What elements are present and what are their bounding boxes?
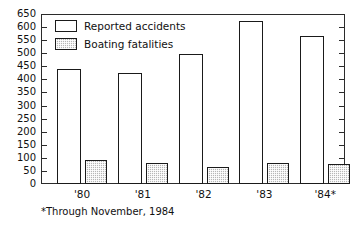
y-tick-mark-left [41, 53, 47, 54]
y-tick-mark-left [41, 27, 47, 28]
bar-reported-accidents [300, 36, 324, 184]
bar-reported-accidents [118, 73, 142, 184]
y-tick-mark-left [41, 119, 47, 120]
y-tick-label: 550 [2, 35, 36, 45]
bar-chart-figure: 650600550500450400350300250200150100500 … [0, 0, 357, 229]
y-tick-label: 250 [2, 114, 36, 124]
y-tick-mark-right [339, 27, 345, 28]
bar-boating-fatalities [328, 164, 350, 184]
legend-item-reported-accidents: Reported accidents [55, 18, 190, 34]
y-tick-mark-left [41, 145, 47, 146]
x-tick-label: '82 [174, 188, 234, 200]
y-tick-mark-left [41, 79, 47, 80]
y-tick-mark-right [339, 66, 345, 67]
y-tick-label: 0 [2, 179, 36, 189]
bar-reported-accidents [179, 54, 203, 184]
bar-reported-accidents [57, 69, 81, 184]
y-tick-mark-right [339, 119, 345, 120]
legend-swatch-icon-fatalities [55, 38, 77, 50]
y-tick-mark-right [339, 53, 345, 54]
y-tick-label: 100 [2, 153, 36, 163]
y-tick-mark-left [41, 171, 47, 172]
bar-boating-fatalities [85, 160, 107, 184]
y-tick-mark-right [339, 158, 345, 159]
y-tick-mark-right [339, 40, 345, 41]
bar-boating-fatalities [267, 163, 289, 184]
legend-item-boating-fatalities: Boating fatalities [55, 36, 190, 52]
y-tick-mark-right [339, 132, 345, 133]
legend-swatch-icon-accidents [55, 20, 77, 32]
bar-boating-fatalities [207, 167, 229, 184]
y-tick-label: 350 [2, 87, 36, 97]
y-tick-mark-left [41, 40, 47, 41]
x-tick-label: '84* [295, 188, 355, 200]
legend-label-fatalities: Boating fatalities [84, 38, 173, 50]
bar-boating-fatalities [146, 163, 168, 184]
y-tick-mark-right [339, 145, 345, 146]
y-tick-mark-right [339, 79, 345, 80]
y-tick-mark-left [41, 132, 47, 133]
y-tick-label: 600 [2, 22, 36, 32]
y-tick-label: 50 [2, 166, 36, 176]
legend-label-accidents: Reported accidents [84, 20, 186, 32]
y-tick-label: 300 [2, 101, 36, 111]
chart-legend: Reported accidents Boating fatalities [55, 18, 190, 54]
x-tick-label: '80 [52, 188, 112, 200]
y-tick-mark-left [41, 158, 47, 159]
y-tick-mark-left [41, 106, 47, 107]
y-tick-mark-left [41, 66, 47, 67]
y-tick-label: 150 [2, 140, 36, 150]
y-tick-label: 450 [2, 61, 36, 71]
y-tick-mark-right [339, 92, 345, 93]
y-tick-label: 500 [2, 48, 36, 58]
chart-footnote: *Through November, 1984 [41, 206, 175, 218]
y-tick-label: 200 [2, 127, 36, 137]
y-tick-mark-left [41, 92, 47, 93]
y-tick-label: 650 [2, 9, 36, 19]
y-tick-mark-right [339, 106, 345, 107]
x-tick-label: '81 [113, 188, 173, 200]
x-tick-label: '83 [234, 188, 294, 200]
y-tick-label: 400 [2, 74, 36, 84]
bar-reported-accidents [239, 21, 263, 184]
